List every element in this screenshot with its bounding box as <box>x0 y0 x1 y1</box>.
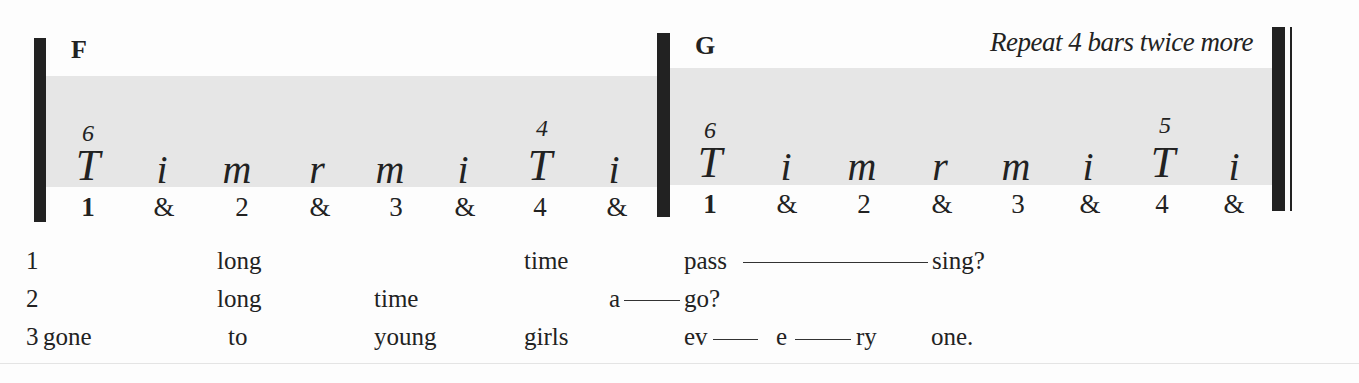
lyric-word: time <box>374 285 418 313</box>
string-number: 5 <box>1150 112 1180 139</box>
chord-symbol: F <box>71 35 87 65</box>
lyric-word: ry <box>856 323 877 351</box>
beat-count: 2 <box>222 192 262 223</box>
finger-middle: m <box>842 147 882 187</box>
finger-index: i <box>594 150 634 190</box>
beat-count: 4 <box>520 192 560 223</box>
beat-count: & <box>1070 189 1110 220</box>
beat-count: & <box>597 192 637 223</box>
lyric-word: girls <box>524 323 568 351</box>
finger-middle: m <box>217 150 257 190</box>
finger-thumb: T <box>690 143 730 183</box>
beat-count: 3 <box>376 192 416 223</box>
beat-count: & <box>144 192 184 223</box>
melisma-line <box>795 339 851 340</box>
staff-band-bar-1 <box>46 76 657 187</box>
page-divider <box>0 363 1359 364</box>
lyric-word: time <box>524 247 568 275</box>
beat-count: & <box>767 189 807 220</box>
finger-index: i <box>1068 147 1108 187</box>
barline-middle <box>657 33 670 217</box>
repeat-instruction: Repeat 4 bars twice more <box>990 27 1253 58</box>
lyric-word: a <box>609 285 620 313</box>
string-number: 4 <box>527 115 557 142</box>
beat-count: & <box>1214 189 1254 220</box>
beat-count: 1 <box>68 192 108 223</box>
beat-count: & <box>445 192 485 223</box>
melisma-line <box>713 339 758 340</box>
lyric-word: sing? <box>932 247 985 275</box>
finger-index: i <box>142 150 182 190</box>
finger-thumb: T <box>68 146 108 186</box>
finger-ring: r <box>920 147 960 187</box>
lyric-word: ev <box>684 323 708 351</box>
lyric-word: go? <box>684 285 720 313</box>
chord-symbol: G <box>695 31 715 61</box>
finger-thumb: T <box>520 146 560 186</box>
barline-end-thin <box>1290 27 1292 211</box>
finger-index: i <box>1214 147 1254 187</box>
verse-number: 2 <box>26 285 39 313</box>
lyric-word: gone <box>43 323 92 351</box>
beat-count: 4 <box>1142 189 1182 220</box>
finger-middle: m <box>370 150 410 190</box>
melisma-line <box>743 262 928 263</box>
lyric-word: one. <box>931 323 973 351</box>
lyric-word: long <box>217 285 261 313</box>
finger-middle: m <box>996 147 1036 187</box>
barline-start <box>34 38 46 222</box>
beat-count: 2 <box>844 189 884 220</box>
melisma-line <box>624 300 680 301</box>
beat-count: & <box>922 189 962 220</box>
beat-count: 3 <box>998 189 1038 220</box>
lyric-word: young <box>374 323 437 351</box>
verse-number: 3 <box>26 323 39 351</box>
beat-count: 1 <box>690 189 730 220</box>
lyric-word: long <box>217 247 261 275</box>
lyric-word: e <box>776 323 787 351</box>
lyric-word: pass <box>684 247 727 275</box>
finger-index: i <box>443 150 483 190</box>
finger-index: i <box>766 147 806 187</box>
finger-ring: r <box>297 150 337 190</box>
lyric-word: to <box>228 323 247 351</box>
beat-count: & <box>300 192 340 223</box>
finger-thumb: T <box>1143 143 1183 183</box>
barline-end-thick <box>1272 27 1285 211</box>
verse-number: 1 <box>26 247 39 275</box>
